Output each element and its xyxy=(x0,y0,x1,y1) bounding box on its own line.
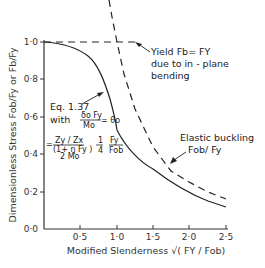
y-tick-labels: 1·0 0·8 0·6 0·4 0·2 0·0 xyxy=(24,37,39,234)
expr-den2: 2 Mo xyxy=(60,152,80,161)
chart: 1·0 0·8 0·6 0·4 0·2 0·0 0·5 1·0 1·5 2·0 … xyxy=(0,0,265,268)
y-axis-title: Dimensionless Stress Fob/Fy or Fb/Fy xyxy=(7,47,18,223)
expr-equals: = xyxy=(46,140,53,149)
svg-text:1·5: 1·5 xyxy=(146,232,160,242)
elastic-buckling-curve xyxy=(109,0,226,199)
eq-frac-den: Mo xyxy=(83,121,95,130)
expr-fob: Fob xyxy=(109,146,123,155)
yield-label-2: due to in - plane xyxy=(151,58,229,69)
x-tick-labels: 0·5 1·0 1·5 2·0 2·5 xyxy=(73,232,233,242)
svg-text:0·8: 0·8 xyxy=(24,74,39,84)
elastic-arrow xyxy=(174,152,186,160)
eq-arrowhead-icon xyxy=(97,92,104,97)
svg-text:0·5: 0·5 xyxy=(73,232,87,242)
elastic-label-2: Fob/ Fy xyxy=(188,144,222,155)
svg-text:0·4: 0·4 xyxy=(24,149,39,159)
expr-fy: Fy xyxy=(110,136,119,145)
svg-text:0·2: 0·2 xyxy=(24,187,38,197)
svg-text:1·0: 1·0 xyxy=(24,37,39,47)
eq-with: with xyxy=(50,114,70,125)
x-axis-title: Modified Slenderness √( FY / Fob) xyxy=(67,245,225,256)
elastic-arrowhead-icon xyxy=(170,157,177,164)
yield-label-3: bending xyxy=(151,70,190,81)
yield-label-1: Yield Fb= FY xyxy=(150,46,211,57)
svg-text:2·5: 2·5 xyxy=(219,232,233,242)
expr-quarter-num: 1 xyxy=(98,136,103,145)
elastic-label-1: Elastic buckling xyxy=(180,132,254,143)
expr-num: Zy / Zx xyxy=(55,136,83,145)
svg-text:0·6: 0·6 xyxy=(24,112,39,122)
expr-quarter-den: 4 xyxy=(98,146,103,155)
eq-frac-num: δo Fy xyxy=(81,111,102,120)
svg-text:1·0: 1·0 xyxy=(110,232,125,242)
svg-text:0·0: 0·0 xyxy=(24,224,39,234)
svg-text:2·0: 2·0 xyxy=(182,232,197,242)
eq-equals: = θo xyxy=(101,116,120,125)
